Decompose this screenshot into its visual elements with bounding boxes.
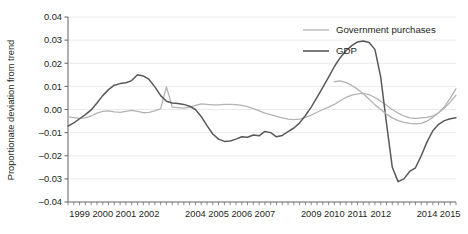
x-tick-label: 2015 xyxy=(440,209,461,219)
y-axis-label: Proportionate deviation from trend xyxy=(6,40,16,181)
x-tick-label: 2000 xyxy=(92,209,113,219)
legend-label: GDP xyxy=(336,45,357,56)
x-tick-label: 2006 xyxy=(231,209,252,219)
x-tick-label: 1999 xyxy=(69,209,90,219)
x-tick-label: 2009 xyxy=(301,209,322,219)
x-tick-label: 2014 xyxy=(417,209,438,219)
x-tick-label: 2005 xyxy=(208,209,229,219)
y-tick-label: 0.03 xyxy=(44,35,62,45)
x-tick-label: 2010 xyxy=(324,209,345,219)
x-tick-label: 2002 xyxy=(139,209,160,219)
y-tick-label: –0.02 xyxy=(39,151,62,161)
x-tick-label: 2007 xyxy=(255,209,276,219)
y-tick-label: 0.04 xyxy=(44,12,62,22)
y-tick-label: –0.01 xyxy=(39,128,62,138)
y-tick-label: –0.04 xyxy=(39,197,62,207)
x-tick-label: 2001 xyxy=(116,209,137,219)
x-tick-label: 2012 xyxy=(370,209,391,219)
chart-figure: 0.040.030.020.010.00–0.01–0.02–0.03–0.04… xyxy=(0,0,468,234)
x-tick-label: 2011 xyxy=(348,209,368,219)
x-tick-label: 2004 xyxy=(185,209,206,219)
chart-plot-area: 0.040.030.020.010.00–0.01–0.02–0.03–0.04… xyxy=(0,0,468,234)
y-tick-label: 0.00 xyxy=(44,105,62,115)
legend-label: Government purchases xyxy=(336,24,436,35)
y-tick-label: 0.01 xyxy=(44,82,62,92)
y-tick-label: –0.03 xyxy=(39,174,62,184)
y-tick-label: 0.02 xyxy=(44,59,62,69)
